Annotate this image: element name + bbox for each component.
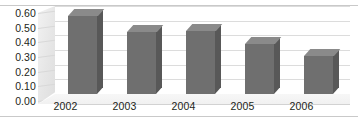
- bar-top-face: [245, 37, 281, 44]
- y-axis-tick-label: 0.50: [15, 23, 36, 33]
- bar-top-face: [304, 49, 340, 56]
- bar-side-face: [333, 49, 339, 94]
- bar: [127, 32, 157, 94]
- bar: [186, 31, 216, 94]
- bar-top-face: [68, 9, 104, 16]
- bar-front-face: [186, 31, 216, 94]
- bar: [245, 44, 275, 94]
- bar-front-face: [304, 56, 334, 94]
- y-axis-tick-label: 0.20: [15, 67, 36, 77]
- y-axis-tick-label: 0.60: [15, 8, 36, 18]
- bar-front-face: [127, 32, 157, 94]
- y-axis-tick-label: 0.10: [15, 81, 36, 91]
- bar: [68, 16, 98, 94]
- x-axis-tick-label: 2005: [222, 100, 264, 112]
- bar-side-face: [274, 37, 280, 94]
- chart-bottom-border: [0, 116, 358, 117]
- x-axis-tick-label: 2006: [281, 100, 323, 112]
- bar-series: [55, 6, 350, 94]
- y-axis-tick-label: 0.30: [15, 52, 36, 62]
- gridline-side: [38, 70, 55, 73]
- bar-side-face: [215, 24, 221, 94]
- bar: [304, 56, 334, 94]
- x-axis-tick-label: 2003: [104, 100, 146, 112]
- y-axis-tick-label: 0.40: [15, 37, 36, 47]
- bar-front-face: [68, 16, 98, 94]
- bar-side-face: [97, 9, 103, 94]
- x-axis-tick-label: 2004: [163, 100, 205, 112]
- gridline-side: [38, 11, 55, 14]
- y-axis: 0.600.500.400.300.200.100.00: [0, 0, 38, 121]
- gridline-side: [38, 84, 55, 87]
- x-axis: 20022003200420052006: [38, 100, 350, 116]
- bar-front-face: [245, 44, 275, 94]
- bar-side-face: [156, 26, 162, 94]
- gridline-side: [38, 40, 55, 43]
- gridline-side: [38, 26, 55, 29]
- y-axis-tick-label: 0.00: [15, 96, 36, 106]
- bar-chart: 0.600.500.400.300.200.100.00 20022003200…: [0, 0, 358, 121]
- axis-side-wall: [38, 6, 55, 104]
- bar-top-face: [186, 24, 222, 31]
- x-axis-tick-label: 2002: [45, 100, 87, 112]
- gridline-side: [38, 55, 55, 58]
